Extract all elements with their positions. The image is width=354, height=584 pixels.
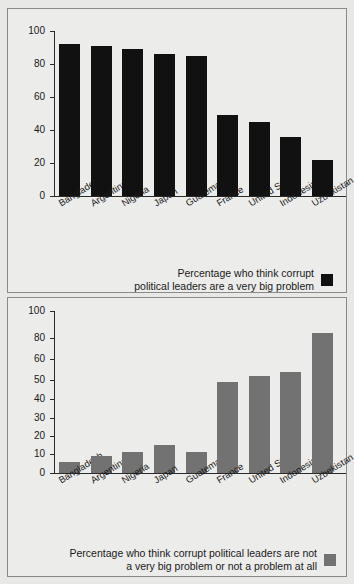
legend-bottom: Percentage who think corrupt political l… — [14, 547, 336, 573]
y-axis-tick-label: 30 — [12, 413, 45, 423]
bar — [249, 376, 270, 473]
legend-swatch-grey-icon — [324, 554, 336, 566]
y-axis-tick — [50, 64, 54, 65]
y-axis-tick — [50, 163, 54, 164]
bar — [59, 44, 80, 196]
legend-bottom-label: Percentage who think corrupt political l… — [70, 547, 317, 573]
chart-page: 020406080100BangladeshArgentinaNigeriaJa… — [0, 0, 354, 584]
y-axis-tick-label: 50 — [12, 375, 45, 385]
y-axis-tick-label: 60 — [12, 354, 45, 364]
y-axis-tick-label: 80 — [12, 333, 45, 343]
chart-panel-not-a-big-problem: 010203040506080100BangladeshArgentinaNig… — [7, 297, 347, 577]
bar — [154, 54, 175, 196]
y-axis-tick — [50, 359, 54, 360]
y-axis-tick — [50, 130, 54, 131]
y-axis-tick — [50, 473, 54, 474]
y-axis-tick — [50, 196, 54, 197]
bar — [122, 49, 143, 196]
legend-top-label: Percentage who think corrupt political l… — [134, 267, 314, 293]
plot-area-bottom: 010203040506080100BangladeshArgentinaNig… — [8, 298, 346, 576]
y-axis-tick — [50, 380, 54, 381]
y-axis-tick — [50, 436, 54, 437]
y-axis-tick — [50, 97, 54, 98]
legend-swatch-dark-icon — [321, 274, 333, 286]
bar — [312, 333, 333, 473]
y-axis-line — [54, 31, 55, 196]
chart-panel-very-big-problem: 020406080100BangladeshArgentinaNigeriaJa… — [7, 8, 347, 293]
bar — [186, 56, 207, 196]
y-axis-tick — [50, 338, 54, 339]
bar — [280, 372, 301, 473]
y-axis-tick-label: 100 — [12, 306, 45, 316]
y-axis-tick-label: 40 — [12, 125, 45, 135]
y-axis-tick-label: 0 — [12, 191, 45, 201]
y-axis-tick-label: 20 — [12, 431, 45, 441]
y-axis-tick — [50, 399, 54, 400]
y-axis-tick — [50, 454, 54, 455]
y-axis-tick-label: 0 — [12, 468, 45, 478]
y-axis-tick-label: 40 — [12, 394, 45, 404]
bar — [217, 382, 238, 473]
y-axis-tick-label: 10 — [12, 449, 45, 459]
y-axis-tick — [50, 311, 54, 312]
y-axis-tick-label: 80 — [12, 59, 45, 69]
y-axis-tick-label: 20 — [12, 158, 45, 168]
y-axis-tick-label: 100 — [12, 26, 45, 36]
y-axis-tick — [50, 31, 54, 32]
bar — [217, 115, 238, 196]
legend-top: Percentage who think corrupt political l… — [118, 267, 333, 293]
plot-area-top: 020406080100BangladeshArgentinaNigeriaJa… — [8, 9, 346, 292]
y-axis-line — [54, 311, 55, 473]
bar — [91, 46, 112, 196]
y-axis-tick-label: 60 — [12, 92, 45, 102]
y-axis-tick — [50, 418, 54, 419]
